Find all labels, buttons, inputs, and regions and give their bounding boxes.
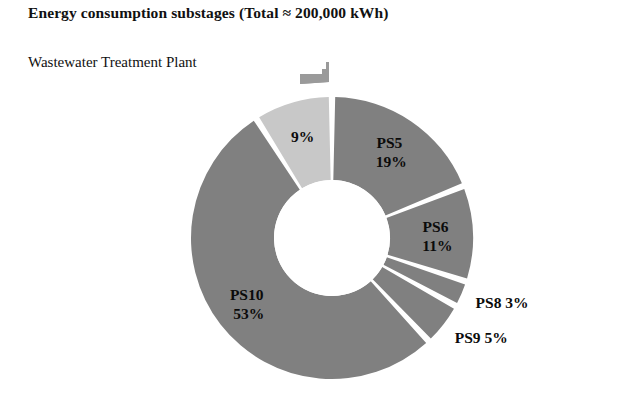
chart-page: Energy consumption substages (Total ≈ 20… [0, 0, 623, 403]
slice-label-ps8: PS8 3% [476, 294, 529, 311]
donut-chart: PS5 19% PS6 11% PS8 3% PS9 5% PS10 53% 9… [0, 0, 623, 403]
slice-label-unnamed-9-percent: 9% [291, 128, 314, 145]
slice-label-ps9: PS9 5% [455, 329, 508, 346]
slice-callout-stub-icon [300, 63, 329, 84]
donut-hole [274, 180, 390, 296]
donut-chart-svg: PS5 19% PS6 11% PS8 3% PS9 5% PS10 53% 9… [0, 0, 623, 403]
